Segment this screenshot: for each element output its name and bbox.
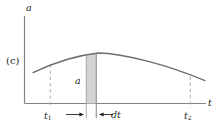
tick-label-t1: t1 (44, 111, 52, 121)
dt-width-label: dt (111, 110, 121, 120)
panel-label: (c) (6, 55, 19, 66)
dt-strip-fill (86, 53, 96, 103)
tick-label-t2-subscript: 2 (188, 114, 192, 121)
tick-label-t2: t2 (184, 111, 192, 121)
strip-height-label: a (75, 76, 81, 86)
acceleration-vs-time-figure: (c) a t t1 t2 dt a (0, 0, 220, 131)
x-axis-label: t (208, 98, 212, 108)
acceleration-curve (33, 53, 205, 81)
tick-label-t1-subscript: 1 (48, 114, 52, 121)
dt-left-arrow (66, 113, 84, 117)
y-axis-label: a (26, 3, 32, 13)
